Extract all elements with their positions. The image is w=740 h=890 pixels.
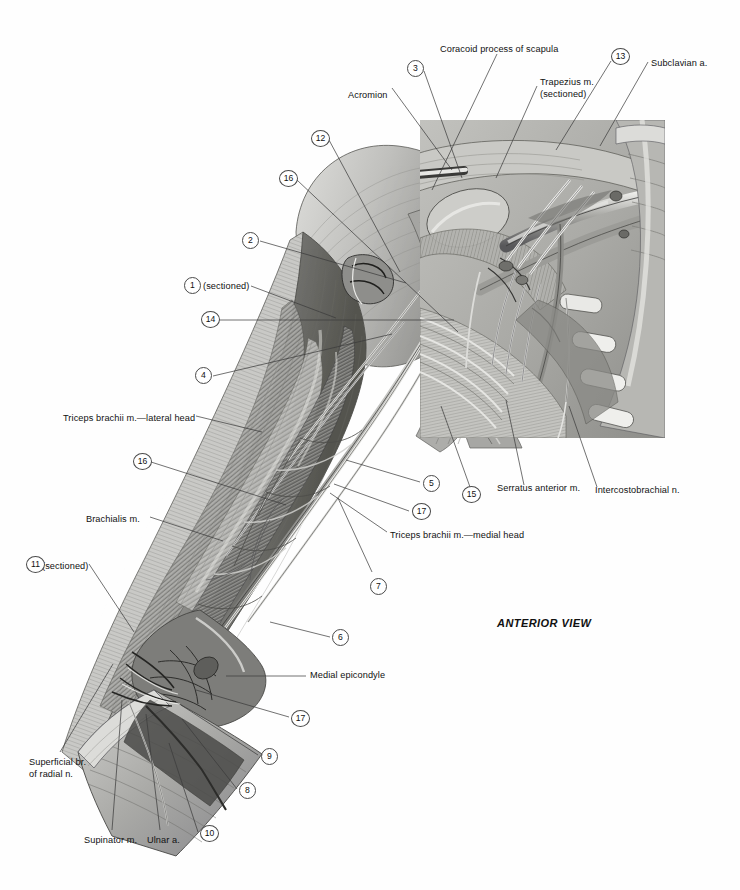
callout-circle-2[interactable]: 2	[242, 232, 259, 249]
label-intercostobrachial-nerve: Intercostobrachial n.	[595, 485, 680, 497]
label-triceps-medial-head: Triceps brachii m.—medial head	[390, 530, 524, 542]
callout-circle-16-shoulder[interactable]: 16	[279, 170, 298, 187]
anatomy-plate: Coracoid process of scapula Acromion Tra…	[0, 0, 740, 890]
label-medial-epicondyle: Medial epicondyle	[310, 670, 385, 682]
label-ulnar-artery: Ulnar a.	[147, 835, 180, 847]
label-1-sectioned: (sectioned)	[203, 281, 249, 293]
label-acromion: Acromion	[348, 90, 388, 102]
callout-circle-9[interactable]: 9	[261, 748, 278, 765]
callout-circle-7[interactable]: 7	[370, 578, 387, 595]
callout-circle-6[interactable]: 6	[332, 629, 349, 646]
callout-circle-16-arm[interactable]: 16	[133, 453, 152, 470]
label-supinator-muscle: Supinator m.	[84, 835, 137, 847]
callout-circle-14[interactable]: 14	[201, 311, 220, 328]
label-coracoid-process: Coracoid process of scapula	[440, 44, 558, 56]
view-caption: ANTERIOR VIEW	[497, 617, 591, 629]
callout-circle-15[interactable]: 15	[462, 486, 481, 503]
leader-lines	[0, 0, 740, 890]
callout-circle-17-upper[interactable]: 17	[412, 503, 431, 520]
label-brachialis-muscle: Brachialis m.	[86, 514, 140, 526]
callout-circle-1[interactable]: 1	[184, 277, 201, 294]
label-trapezius-muscle: Trapezius m.	[540, 77, 594, 89]
callout-circle-10[interactable]: 10	[200, 825, 219, 842]
label-11-sectioned: (sectioned)	[42, 561, 88, 573]
callout-circle-12[interactable]: 12	[311, 130, 330, 147]
label-triceps-lateral-head: Triceps brachii m.—lateral head	[63, 413, 195, 425]
label-subclavian-artery: Subclavian a.	[651, 58, 707, 70]
callout-circle-8[interactable]: 8	[239, 782, 256, 799]
label-superficial-radial-line2: of radial n.	[29, 769, 73, 781]
callout-circle-5[interactable]: 5	[423, 475, 440, 492]
label-trapezius-sectioned: (sectioned)	[540, 89, 586, 101]
callout-circle-4[interactable]: 4	[195, 367, 212, 384]
label-superficial-radial-line1: Superficial br.	[29, 757, 86, 769]
callout-circle-17-lower[interactable]: 17	[291, 710, 310, 727]
label-serratus-anterior: Serratus anterior m.	[497, 483, 580, 495]
callout-circle-13[interactable]: 13	[611, 48, 630, 65]
callout-circle-3[interactable]: 3	[407, 60, 424, 77]
callout-circle-11[interactable]: 11	[26, 556, 45, 573]
